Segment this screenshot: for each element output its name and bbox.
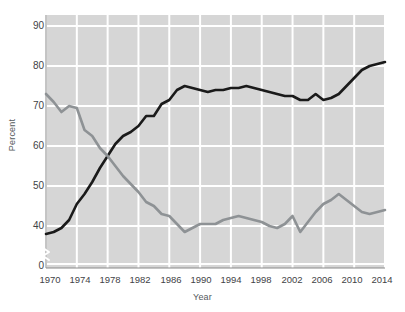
x-tick-2014: 2014 — [365, 274, 399, 285]
gridlines — [46, 15, 385, 268]
x-tick-1982: 1982 — [123, 274, 157, 285]
annotation-philosophy-line1: Develop a meaningful — [229, 197, 312, 208]
annotation-philosophy-line2: philosophy of life — [229, 208, 312, 219]
y-tick-90: 90 — [18, 21, 44, 31]
x-tick-2010: 2010 — [335, 274, 369, 285]
x-tick-2006: 2006 — [305, 274, 339, 285]
x-tick-1974: 1974 — [63, 274, 97, 285]
x-tick-1970: 1970 — [33, 274, 67, 285]
annotation-well-off-line2: financially — [229, 123, 288, 134]
x-tick-1994: 1994 — [214, 274, 248, 285]
data-series — [46, 62, 385, 234]
x-tick-1990: 1990 — [184, 274, 218, 285]
y-axis-label: Percent — [7, 105, 17, 165]
x-axis-label: Year — [0, 292, 405, 302]
annotation-well-off-line1: Be very well-off — [229, 112, 288, 123]
y-tick-60: 60 — [18, 141, 44, 151]
y-tick-80: 80 — [18, 61, 44, 71]
y-tick-50: 50 — [18, 181, 44, 191]
chart-container: Percent 90 80 70 60 50 40 0 1970 1974 19… — [0, 0, 405, 312]
y-axis-ticks: 90 80 70 60 50 40 0 — [18, 0, 44, 312]
x-tick-1986: 1986 — [154, 274, 188, 285]
x-tick-1978: 1978 — [93, 274, 127, 285]
plot-area — [0, 0, 405, 312]
y-tick-0: 0 — [18, 261, 44, 271]
x-tick-1998: 1998 — [244, 274, 278, 285]
y-tick-40: 40 — [18, 221, 44, 231]
axis-lines — [46, 15, 385, 268]
x-tick-2002: 2002 — [275, 274, 309, 285]
annotation-well-off: Be very well-off financially — [229, 112, 288, 134]
plot-background — [46, 15, 385, 268]
y-tick-70: 70 — [18, 101, 44, 111]
annotation-philosophy: Develop a meaningful philosophy of life — [229, 197, 312, 219]
